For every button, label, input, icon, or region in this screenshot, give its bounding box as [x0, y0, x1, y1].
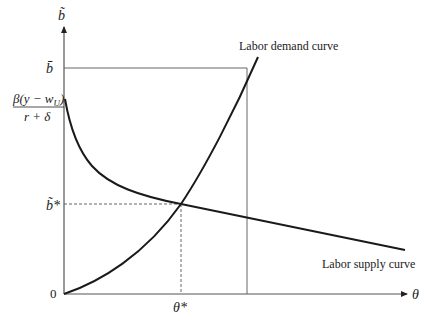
labor-market-diagram: b̃ b̄ β(y − wU) r + δ b̃* 0 θ* θ Labor d…	[0, 0, 424, 322]
theta-star-label: θ*	[173, 300, 187, 315]
b-bar-label: b̄	[46, 61, 53, 76]
intercept-numerator: β(y − wU)	[12, 91, 64, 108]
y-axis-label: b̃	[58, 7, 65, 23]
x-axis-label: θ	[412, 287, 419, 302]
labor-supply-label: Labor supply curve	[322, 257, 415, 271]
labor-demand-label: Labor demand curve	[239, 39, 338, 53]
labor-supply-curve	[65, 99, 405, 250]
b-star-label: b̃*	[46, 197, 60, 213]
labor-demand-curve	[64, 57, 258, 294]
origin-label: 0	[50, 286, 57, 301]
intercept-denominator: r + δ	[24, 109, 51, 124]
